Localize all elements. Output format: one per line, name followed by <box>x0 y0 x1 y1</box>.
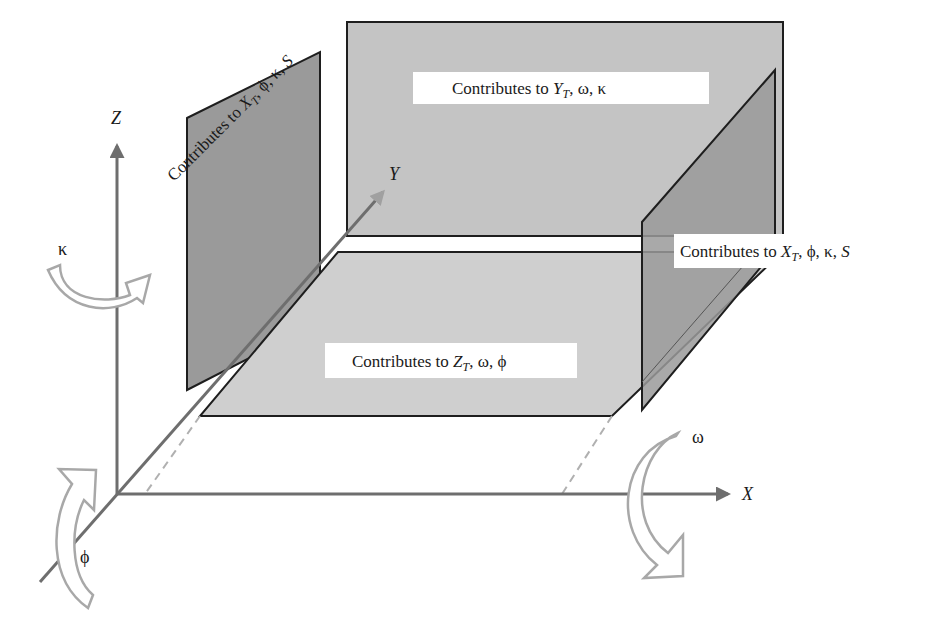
svg-text:Contributes to ZT, ω, ϕ: Contributes to ZT, ω, ϕ <box>352 352 506 374</box>
phi-rotation-arrow-icon <box>56 469 96 608</box>
floor-plane-label: Contributes to ZT, ω, ϕ <box>325 343 577 378</box>
right-plane-label: Contributes to XT, ϕ, κ, S <box>674 234 904 268</box>
back-plane-label: Contributes to YT, ω, κ <box>413 72 709 104</box>
kappa-rotation-arrow-icon <box>48 265 150 308</box>
z-axis-label: Z <box>111 108 122 128</box>
svg-text:Contributes to XT, ϕ, κ, S: Contributes to XT, ϕ, κ, S <box>680 242 850 264</box>
coordinate-system-diagram: Z Y X κ ϕ ω Contributes to YT, ω, κ Cont… <box>0 0 931 637</box>
omega-rotation-arrow-icon <box>628 433 683 578</box>
kappa-label: κ <box>58 239 67 259</box>
svg-text:Contributes to YT, ω, κ: Contributes to YT, ω, κ <box>452 79 606 101</box>
omega-label: ω <box>692 427 704 447</box>
dashed-projection-right <box>562 416 612 494</box>
x-axis-label: X <box>741 484 754 504</box>
phi-label: ϕ <box>80 547 89 567</box>
